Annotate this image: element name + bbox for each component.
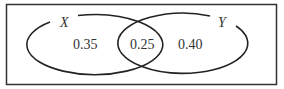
set-x-label: X	[59, 15, 69, 30]
region-intersection-value: 0.25	[130, 37, 155, 52]
set-y-label: Y	[218, 15, 228, 30]
region-y-only-value: 0.40	[178, 37, 203, 52]
region-x-only-value: 0.35	[73, 37, 98, 52]
venn-diagram: X Y 0.35 0.25 0.40	[0, 0, 284, 89]
